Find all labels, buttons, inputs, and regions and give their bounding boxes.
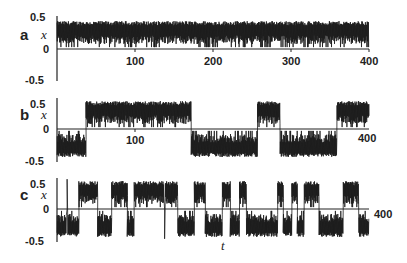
ytick-top-a: 0.5 bbox=[30, 11, 45, 23]
xtick-300-a: 300 bbox=[282, 55, 300, 67]
ytick-mid-c: 0 bbox=[43, 203, 49, 215]
y-axis-label-a: x bbox=[40, 27, 47, 42]
panel-c: c x 0.5 0 -0.5 400 t bbox=[20, 178, 392, 253]
ytick-bot-c: -0.5 bbox=[25, 235, 44, 247]
xtick-200-a: 200 bbox=[204, 55, 222, 67]
ytick-top-c: 0.5 bbox=[30, 178, 45, 190]
xtick-100-a: 100 bbox=[126, 55, 144, 67]
panel-b: b x 0.5 0 -0.5 100 400 bbox=[20, 98, 376, 167]
ytick-top-b: 0.5 bbox=[30, 98, 45, 110]
ytick-bot-b: -0.5 bbox=[25, 155, 44, 167]
figure: a x 0.5 0 -0.5 100 200 300 400 b x 0.5 0… bbox=[0, 0, 407, 263]
panel-a: a x 0.5 0 -0.5 100 200 300 400 bbox=[20, 11, 378, 86]
trace-a bbox=[57, 21, 369, 47]
waveform-a bbox=[57, 21, 369, 47]
ytick-mid-a: 0 bbox=[43, 43, 49, 55]
panel-label-b: b bbox=[20, 106, 29, 123]
xtick-400-c: 400 bbox=[374, 208, 392, 220]
panel-label-c: c bbox=[20, 186, 28, 203]
xtick-100-b: 100 bbox=[126, 134, 144, 146]
panel-label-a: a bbox=[20, 26, 29, 43]
xtick-400-a: 400 bbox=[360, 55, 378, 67]
ytick-bot-a: -0.5 bbox=[25, 74, 44, 86]
ytick-mid-b: 0 bbox=[43, 123, 49, 135]
x-axis-label-c: t bbox=[221, 238, 225, 253]
xtick-400-b: 400 bbox=[358, 132, 376, 144]
